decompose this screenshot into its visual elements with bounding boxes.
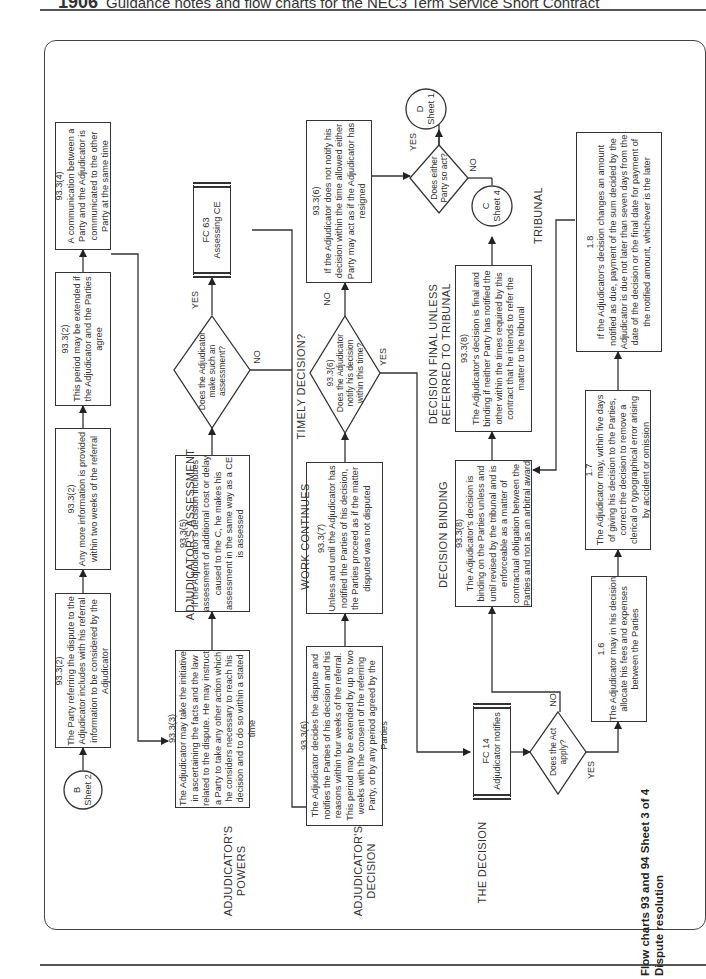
clause-text: The Adjudicator decides the dispute and … <box>310 646 390 826</box>
box-more-info-text: 93.3(2)Any more information is provided … <box>55 428 111 570</box>
clause-text: A communication between a Party and the … <box>66 122 112 250</box>
box-referral-text: 93.3(2)The Party referring the dispute t… <box>55 594 111 749</box>
box-payment-text: 1.8If the Adjudicator's decision changes… <box>576 132 662 352</box>
timely-question: 93.3(6)Does the Adjudicator notify his d… <box>326 328 364 418</box>
clause-ref: 93.3(2) <box>54 656 65 685</box>
box-work-continues-text: 93.3(7)Unless and until the Adjudicator … <box>306 463 383 615</box>
section-binding: DECISION BINDING <box>437 470 450 600</box>
box-binding-text: 93.3(8)The Adjudicator's decision is bin… <box>455 460 532 607</box>
clause-ref: 1.6 <box>596 643 607 656</box>
box-fc14-text: FC 14Adjudicator notifies <box>474 703 510 800</box>
clause-ref: 93.3(4) <box>54 171 65 200</box>
connector-sheet: Sheet 1 <box>426 93 437 125</box>
clause-ref: 93.3(3) <box>166 714 177 743</box>
connector-sheet: Sheet 2 <box>83 774 94 806</box>
clause-text: If the Adjudicator's decision includes a… <box>190 455 247 612</box>
box-final-text: 93.3(8)The Adjudicator's decision is fin… <box>455 265 532 432</box>
clause-ref: 1.7 <box>584 464 595 477</box>
box-extended-text: 93.3(2)This period may be extended if th… <box>55 272 111 406</box>
clause-ref: 93.3(6) <box>298 721 309 750</box>
connector-letter: B <box>72 787 83 793</box>
clause-text: The Party referring the dispute to the A… <box>65 594 111 749</box>
either-yes-label: YES <box>408 133 418 151</box>
clause-text: This period may be extended if the Adjud… <box>72 272 106 406</box>
section-work-continues: WORK CONTINUES <box>299 472 312 602</box>
connector-letter: D <box>415 106 426 113</box>
clause-text: The Adjudicator's decision is binding on… <box>465 460 533 607</box>
clause-ref: 93.3(6) <box>311 186 322 215</box>
flowchart-text: Assessing CE <box>212 201 223 258</box>
box-fees-text: 1.6The Adjudicator may in his decision a… <box>591 576 647 722</box>
timely-no-label: NO <box>322 292 332 306</box>
connector-b[interactable]: BSheet 2 <box>73 770 93 810</box>
section-tribunal: TRIBUNAL <box>532 176 545 256</box>
box-decides-text: 93.3(6)The Adjudicator decides the dispu… <box>306 646 383 826</box>
clause-text: If the Adjudicator does not notify his d… <box>322 120 368 283</box>
act-yes-label: YES <box>586 761 596 779</box>
connector-letter: C <box>481 203 492 210</box>
act-no-label: NO <box>548 693 558 707</box>
clause-ref: 93.3(8) <box>459 334 470 363</box>
flowchart-ref: FC 63 <box>201 217 212 242</box>
sheet-title-line1: Flow charts 93 and 94 Sheet 3 of 4 <box>638 736 652 976</box>
box-fc63-text: FC 63Assessing CE <box>194 182 230 278</box>
assessment-question: Does the Adjudicator make such an assess… <box>195 329 229 413</box>
section-powers: ADJUDICATOR'S POWERS <box>222 806 248 936</box>
either-question: Does either Party so act? <box>427 152 451 204</box>
box-powers-text: 93.3(3)The Adjudicator may take the init… <box>175 650 250 808</box>
clause-ref: 93.3(2) <box>60 324 71 353</box>
section-final: DECISION FINAL UNLESS REFERRED TO TRIBUN… <box>427 269 453 439</box>
flowchart-text: Adjudicator notifies <box>492 712 503 790</box>
box-communication-text: 93.3(4)A communication between a Party a… <box>55 122 111 250</box>
assessment-no-label: NO <box>252 350 262 364</box>
clause-text: The Adjudicator may take the initiative … <box>178 650 258 808</box>
clause-text: The Adjudicator's decision is final and … <box>471 265 528 432</box>
section-the-decision: THE DECISION <box>476 808 489 918</box>
section-decision: ADJUDICATOR'S DECISION <box>352 806 378 936</box>
sheet-title-line2: Dispute resolution <box>652 736 666 976</box>
clause-text: The Adjudicator may, within five days of… <box>595 390 652 550</box>
act-question: Does the Act apply? <box>547 724 569 780</box>
clause-text: Unless and until the Adjudicator has not… <box>327 463 373 615</box>
clause-ref: 1.8 <box>585 236 596 249</box>
box-not-notify-text: 93.3(6)If the Adjudicator does not notif… <box>307 120 373 283</box>
clause-ref: 93.3(7) <box>315 524 326 553</box>
sheet-title: Flow charts 93 and 94 Sheet 3 of 4Disput… <box>638 736 666 976</box>
either-no-label: NO <box>468 158 478 172</box>
assessment-yes-label: YES <box>190 291 200 309</box>
clause-text: The Adjudicator may in his decision allo… <box>608 576 642 722</box>
connector-sheet: Sheet 4 <box>492 190 503 222</box>
clause-ref: 93.3(2) <box>66 484 77 513</box>
flowchart-ref: FC 14 <box>480 738 491 763</box>
clause-ref: 93.3(8) <box>454 519 465 548</box>
box-correct-text: 1.7The Adjudicator may, within five days… <box>585 390 651 550</box>
timely-yes-label: YES <box>378 348 388 366</box>
section-assessment: ADJUDICATOR'S ASSESSMENT <box>184 445 197 625</box>
connector-d[interactable]: DSheet 1 <box>416 89 436 129</box>
section-timely: TIMELY DECISION? <box>295 322 308 452</box>
clause-text: If the Adjudicator's decision changes an… <box>596 132 653 352</box>
connector-c[interactable]: CSheet 4 <box>482 186 502 226</box>
clause-text: Any more information is provided within … <box>77 428 100 570</box>
